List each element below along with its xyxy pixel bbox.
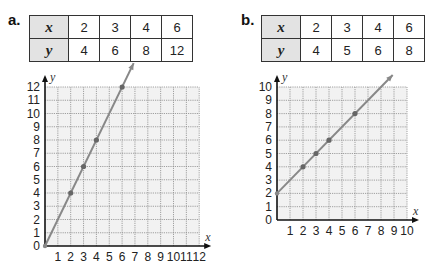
y-tick-label: 8 — [33, 133, 40, 147]
y-tick-label: 2 — [265, 186, 272, 200]
graph-b: xy12345678910012345678910 — [259, 70, 419, 238]
x-tick-label: 10 — [400, 224, 414, 238]
x-tick-label: 4 — [326, 224, 333, 238]
x-tick-label: 9 — [157, 250, 164, 264]
y-axis-arrow-icon — [42, 75, 48, 82]
data-point — [352, 111, 357, 116]
x-tick-label: 7 — [365, 224, 372, 238]
x-tick-label: 10 — [167, 250, 181, 264]
x-axis-label: x — [412, 204, 419, 218]
x-tick-label: 7 — [132, 250, 139, 264]
line-start-point — [43, 244, 47, 248]
y-tick-label: 2 — [33, 213, 40, 227]
x-tick-label: 8 — [144, 250, 151, 264]
y-tick-label: 7 — [265, 120, 272, 134]
y-tick-label: 12 — [27, 80, 41, 94]
x-tick-label: 2 — [300, 224, 307, 238]
data-point — [300, 164, 305, 169]
x-tick-label: 8 — [378, 224, 385, 238]
graphs-canvas: xy1234567891011120123456789101112 xy1234… — [0, 0, 431, 275]
line-start-point — [275, 191, 279, 195]
x-tick-label: 1 — [55, 250, 62, 264]
y-tick-label: 10 — [259, 80, 273, 94]
data-point — [81, 164, 86, 169]
x-tick-label: 6 — [119, 250, 126, 264]
x-tick-label: 3 — [313, 224, 320, 238]
y-tick-label: 3 — [33, 199, 40, 213]
x-tick-label: 2 — [67, 250, 74, 264]
data-point — [313, 151, 318, 156]
x-tick-label: 12 — [193, 250, 207, 264]
y-tick-label: 4 — [33, 186, 40, 200]
x-tick-label: 5 — [106, 250, 113, 264]
x-tick-label: 3 — [80, 250, 87, 264]
y-tick-label: 6 — [265, 133, 272, 147]
y-tick-label: 9 — [265, 93, 272, 107]
data-point — [94, 137, 99, 142]
y-tick-label: 4 — [265, 160, 272, 174]
y-tick-label: 8 — [265, 107, 272, 121]
y-tick-label: 5 — [265, 147, 272, 161]
y-tick-label: 10 — [27, 107, 41, 121]
y-axis-label: y — [49, 70, 56, 84]
y-tick-label: 1 — [33, 226, 40, 240]
x-axis-label: x — [204, 230, 211, 244]
x-tick-label: 11 — [180, 250, 193, 264]
y-tick-label: 6 — [33, 160, 40, 174]
y-tick-label: 0 — [265, 213, 272, 227]
x-tick-label: 4 — [93, 250, 100, 264]
x-tick-label: 9 — [391, 224, 398, 238]
y-tick-label: 11 — [28, 93, 41, 107]
x-tick-label: 5 — [339, 224, 346, 238]
data-point — [120, 84, 125, 89]
graph-a: xy1234567891011120123456789101112 — [27, 63, 212, 264]
y-tick-label: 0 — [33, 239, 40, 253]
data-point — [68, 190, 73, 195]
y-tick-label: 7 — [33, 146, 40, 160]
y-tick-label: 5 — [33, 173, 40, 187]
y-axis-label: y — [281, 70, 288, 84]
x-tick-label: 6 — [352, 224, 359, 238]
x-tick-label: 1 — [287, 224, 294, 238]
data-point — [326, 138, 331, 143]
y-tick-label: 3 — [265, 173, 272, 187]
y-tick-label: 9 — [33, 120, 40, 134]
y-axis-arrow-icon — [274, 75, 280, 82]
y-tick-label: 1 — [265, 200, 272, 214]
